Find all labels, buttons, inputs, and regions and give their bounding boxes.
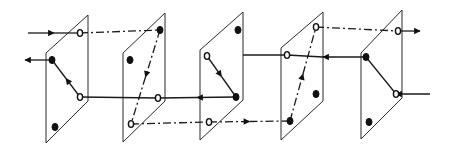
connections-group bbox=[25, 27, 430, 124]
filled-node-icon bbox=[363, 53, 369, 60]
open-node-icon bbox=[128, 121, 133, 128]
connection-line bbox=[158, 98, 197, 99]
filled-node-icon bbox=[235, 26, 241, 33]
connection-line bbox=[250, 121, 291, 122]
filled-node-icon bbox=[313, 90, 319, 97]
connection-line bbox=[80, 97, 158, 98]
open-node-icon bbox=[77, 30, 82, 37]
filled-node-icon bbox=[233, 93, 239, 100]
connection-line bbox=[80, 30, 160, 33]
connection-line bbox=[366, 57, 396, 94]
nodes-group bbox=[49, 24, 401, 131]
connection-line bbox=[287, 55, 323, 57]
open-node-icon bbox=[393, 91, 398, 98]
filled-node-icon bbox=[127, 56, 133, 63]
open-node-icon bbox=[155, 95, 160, 102]
open-node-icon bbox=[204, 53, 209, 60]
open-node-icon bbox=[284, 52, 289, 59]
connection-line bbox=[146, 30, 161, 77]
filled-node-icon bbox=[49, 56, 55, 63]
connection-line bbox=[209, 122, 250, 123]
filled-node-icon bbox=[52, 123, 58, 130]
five-plane-connection-diagram bbox=[0, 0, 453, 152]
connection-line bbox=[131, 77, 146, 124]
connection-line bbox=[303, 27, 316, 74]
open-node-icon bbox=[206, 119, 211, 126]
open-node-icon bbox=[77, 94, 82, 101]
connection-line bbox=[290, 74, 303, 121]
open-node-icon bbox=[313, 24, 318, 31]
filled-node-icon bbox=[157, 26, 163, 33]
open-node-icon bbox=[395, 28, 400, 35]
filled-node-icon bbox=[366, 118, 372, 125]
connection-line bbox=[197, 97, 236, 98]
planes-group bbox=[46, 10, 402, 143]
filled-node-icon bbox=[287, 117, 293, 124]
